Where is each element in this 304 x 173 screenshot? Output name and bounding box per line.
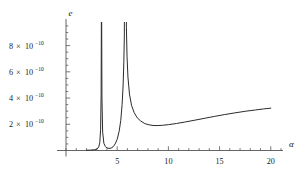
svg-text:10: 10 bbox=[25, 94, 33, 103]
svg-text:10: 10 bbox=[25, 68, 33, 77]
svg-text:2: 2 bbox=[9, 120, 13, 129]
svg-text:10: 10 bbox=[25, 120, 33, 129]
svg-text:4: 4 bbox=[9, 94, 13, 103]
svg-text:6: 6 bbox=[9, 68, 13, 77]
svg-text:−10: −10 bbox=[35, 40, 44, 46]
x-axis-tick-label: 5 bbox=[115, 157, 119, 166]
svg-text:−10: −10 bbox=[35, 92, 44, 98]
svg-text:×: × bbox=[16, 120, 21, 129]
x-axis-tick-label: 10 bbox=[164, 157, 172, 166]
x-axis-name: α bbox=[289, 139, 294, 149]
svg-text:×: × bbox=[16, 68, 21, 77]
plot-area: 2×10−104×10−106×10−108×10−105101520 eα bbox=[0, 0, 304, 173]
svg-text:8: 8 bbox=[9, 42, 13, 51]
svg-text:10: 10 bbox=[25, 42, 33, 51]
x-axis-tick-label: 15 bbox=[215, 157, 223, 166]
chart-figure: 2×10−104×10−106×10−108×10−105101520 eα bbox=[0, 0, 304, 173]
svg-text:−10: −10 bbox=[35, 66, 44, 72]
y-axis-name: e bbox=[69, 8, 73, 18]
svg-text:−10: −10 bbox=[35, 118, 44, 124]
chart-background bbox=[0, 0, 304, 173]
svg-text:×: × bbox=[16, 94, 21, 103]
x-axis-tick-label: 20 bbox=[267, 157, 275, 166]
svg-text:×: × bbox=[16, 42, 21, 51]
